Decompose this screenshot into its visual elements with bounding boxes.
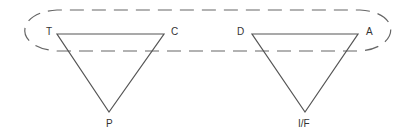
label-a: A [366, 26, 373, 37]
label-c: C [171, 26, 178, 37]
diagram-canvas: T C P D A I/F [0, 0, 418, 134]
left-triangle [57, 34, 164, 112]
right-triangle [252, 34, 358, 112]
label-t: T [46, 26, 52, 37]
grouping-ellipse [25, 10, 391, 51]
label-i-f: I/F [298, 118, 310, 129]
label-d: D [237, 26, 244, 37]
label-p: P [106, 118, 113, 129]
